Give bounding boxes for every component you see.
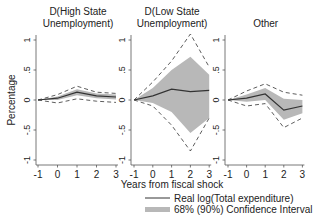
- y-tick-label: -1: [211, 156, 221, 164]
- x-axis-label: Years from fiscal shock: [121, 179, 224, 190]
- confidence-band-68: [134, 57, 209, 133]
- y-axis-label: Percentage: [6, 74, 17, 126]
- x-tick-label: 2: [281, 169, 287, 180]
- panel-1: 1.50-.5-1-10123D(High StateUnemployment): [22, 6, 119, 180]
- y-tick-label: .5: [211, 66, 221, 74]
- y-tick-label: 1: [22, 37, 32, 42]
- x-tick-label: 2: [94, 169, 100, 180]
- x-tick-label: 0: [244, 169, 250, 180]
- panel-3: 1.50-.5-1-10123Other: [211, 18, 306, 180]
- y-tick-label: -.5: [117, 125, 127, 136]
- panel-title: Other: [253, 18, 279, 29]
- x-tick-label: -1: [34, 169, 43, 180]
- y-tick-label: 1: [117, 37, 127, 42]
- x-tick-label: 3: [300, 169, 306, 180]
- y-tick-label: -1: [22, 156, 32, 164]
- x-tick-label: 1: [262, 169, 268, 180]
- panel-2: 1.50-.5-1-10123D(Low StateUnemployment): [117, 6, 212, 180]
- y-tick-label: -.5: [211, 125, 221, 136]
- impulse-response-chart: 1.50-.5-1-10123D(High StateUnemployment)…: [0, 0, 319, 221]
- x-tick-label: 0: [55, 169, 61, 180]
- y-tick-label: .5: [117, 66, 127, 74]
- legend-band-label: 68% (90%) Confidence Interval: [174, 204, 312, 215]
- panel-title: D(Low State: [145, 6, 200, 17]
- panel-title: D(High State: [49, 6, 107, 17]
- legend: Real log(Total expenditure) 68% (90%) Co…: [145, 193, 312, 216]
- x-tick-label: 3: [113, 169, 119, 180]
- y-tick-label: 1: [211, 37, 221, 42]
- y-tick-label: -.5: [22, 125, 32, 136]
- x-tick-label: -1: [224, 169, 233, 180]
- legend-band-swatch: [145, 207, 170, 212]
- x-tick-label: 1: [74, 169, 80, 180]
- y-tick-label: .5: [22, 66, 32, 74]
- y-tick-label: -1: [117, 156, 127, 164]
- panel-title: Unemployment): [43, 18, 114, 29]
- y-tick-label: 0: [211, 97, 221, 102]
- panel-title: Unemployment): [137, 18, 208, 29]
- legend-line-label: Real log(Total expenditure): [174, 193, 294, 204]
- y-tick-label: 0: [117, 97, 127, 102]
- y-tick-label: 0: [22, 97, 32, 102]
